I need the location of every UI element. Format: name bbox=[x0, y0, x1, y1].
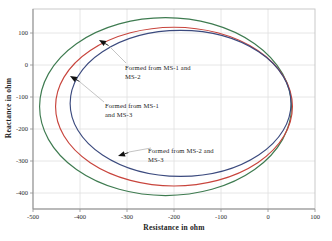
x-tick-label: -400 bbox=[74, 213, 86, 220]
annotation-text-line: and MS-3 bbox=[105, 111, 133, 118]
x-tick-label: -500 bbox=[27, 213, 39, 220]
y-tick-label: -200 bbox=[16, 125, 28, 132]
annotation-text-line: Formed from MS-2 and bbox=[148, 147, 214, 154]
y-tick-label: 0 bbox=[25, 61, 28, 68]
chart-canvas: -500-400-300-200-10001001000-100-200-300… bbox=[0, 0, 332, 241]
x-tick-label: -100 bbox=[215, 213, 227, 220]
y-tick-label: -300 bbox=[16, 157, 28, 164]
x-tick-label: 100 bbox=[310, 213, 320, 220]
impedance-characteristic-figure: -500-400-300-200-10001001000-100-200-300… bbox=[0, 0, 332, 241]
y-axis-label: Reactance in ohm bbox=[4, 78, 13, 138]
annotation-text-line: Formed from MS-1 and bbox=[125, 64, 191, 71]
annotation-text-line: MS-3 bbox=[148, 156, 164, 163]
x-axis-label: Resistance in ohm bbox=[33, 223, 315, 232]
annotation-arrow-tail bbox=[76, 80, 79, 82]
annotation-leader-line bbox=[109, 46, 126, 63]
annotation-text-line: MS-2 bbox=[125, 73, 141, 80]
outer-ellipse-curve bbox=[40, 18, 292, 196]
x-tick-label: -300 bbox=[121, 213, 133, 220]
annotation-arrow-tail bbox=[105, 44, 108, 46]
inner-ellipse-curve bbox=[70, 30, 291, 176]
annotation-arrow-tail bbox=[125, 153, 129, 154]
annotation-arrow-head bbox=[70, 76, 77, 82]
x-tick-label: 0 bbox=[266, 213, 269, 220]
x-tick-label: -200 bbox=[168, 213, 180, 220]
y-tick-label: -400 bbox=[16, 189, 28, 196]
y-tick-label: 100 bbox=[18, 29, 28, 36]
annotation-text-line: Formed from MS-1 bbox=[105, 102, 159, 109]
y-tick-label: -100 bbox=[16, 93, 28, 100]
annotation-arrow-head bbox=[118, 151, 126, 156]
annotation-leader-line bbox=[80, 82, 104, 102]
